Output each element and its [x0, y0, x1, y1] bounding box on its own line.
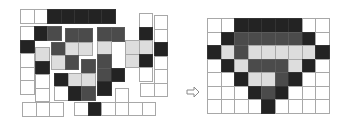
piece-cell-dark [54, 73, 69, 88]
target-cell-white [207, 86, 222, 101]
target-cell-dark [248, 86, 263, 101]
target-cell-dark [248, 18, 263, 33]
piece-cell-white [142, 102, 157, 117]
target-cell-light-gray [261, 72, 276, 87]
piece-cell-medium-gray [111, 27, 126, 42]
piece-cell-white [154, 56, 169, 71]
piece-cell-dark [139, 54, 154, 69]
piece-cell-medium-gray [51, 42, 66, 57]
target-cell-dark [288, 72, 303, 87]
target-cell-light-gray [221, 45, 236, 60]
piece-cell-white [20, 80, 35, 95]
piece-cell-dark [61, 9, 76, 24]
target-cell-white [207, 72, 222, 87]
piece-cell-medium-gray [78, 28, 93, 43]
piece-cell-dark [20, 40, 35, 55]
piece-cell-dark [74, 9, 89, 24]
target-cell-white [302, 18, 317, 33]
piece-cell-light-gray [125, 40, 140, 55]
target-cell-dark [234, 72, 249, 87]
piece-cell-dark [88, 102, 103, 117]
target-cell-medium-gray [275, 59, 290, 74]
piece-cell-white [154, 69, 169, 84]
piece-cell-dark [111, 68, 126, 83]
target-cell-dark [221, 59, 236, 74]
target-cell-dark [234, 18, 249, 33]
target-cell-dark [315, 45, 330, 60]
target-cell-white [302, 72, 317, 87]
target-cell-light-gray [248, 45, 263, 60]
piece-cell-medium-gray [97, 54, 112, 69]
target-cell-light-gray [261, 45, 276, 60]
target-cell-white [221, 86, 236, 101]
piece-cell-dark [88, 9, 103, 24]
piece-cell-light-gray [51, 55, 66, 70]
target-cell-white [315, 18, 330, 33]
target-cell-white [207, 59, 222, 74]
target-cell-medium-gray [234, 32, 249, 47]
piece-cell-dark [101, 9, 116, 24]
target-cell-white [248, 99, 263, 114]
target-cell-light-gray [288, 59, 303, 74]
piece-cell-white [20, 67, 35, 82]
piece-cell-white [139, 67, 154, 82]
target-cell-medium-gray [275, 32, 290, 47]
target-cell-light-gray [234, 59, 249, 74]
piece-cell-medium-gray [65, 28, 80, 43]
piece-cell-white [115, 88, 130, 103]
piece-cell-light-gray [68, 73, 83, 88]
piece-cell-dark [154, 42, 169, 57]
target-cell-white [207, 18, 222, 33]
target-cell-white [207, 99, 222, 114]
target-cell-dark [261, 18, 276, 33]
target-cell-white [221, 99, 236, 114]
piece-cell-white [128, 102, 143, 117]
piece-cell-dark [97, 81, 112, 96]
piece-cell-white [35, 74, 50, 89]
piece-cell-white [139, 13, 154, 28]
piece-cell-light-gray [125, 54, 140, 69]
piece-cell-medium-gray [97, 68, 112, 83]
target-cell-medium-gray [288, 32, 303, 47]
piece-cell-medium-gray [81, 86, 96, 101]
target-cell-light-gray [302, 45, 317, 60]
piece-cell-medium-gray [65, 55, 80, 70]
target-cell-dark [221, 32, 236, 47]
piece-cell-white [36, 102, 51, 117]
piece-cell-white [22, 102, 37, 117]
piece-cell-white [154, 15, 169, 30]
piece-cell-white [20, 53, 35, 68]
target-cell-medium-gray [248, 32, 263, 47]
target-cell-dark [302, 32, 317, 47]
piece-cell-dark [35, 61, 50, 76]
piece-cell-light-gray [139, 40, 154, 55]
right-arrow-icon [186, 86, 200, 98]
piece-cell-white [101, 102, 116, 117]
target-cell-medium-gray [261, 86, 276, 101]
piece-cell-white [154, 29, 169, 44]
piece-cell-white [54, 86, 69, 101]
piece-cell-white [35, 88, 50, 103]
piece-cell-dark [34, 26, 49, 41]
target-cell-white [315, 86, 330, 101]
target-cell-white [207, 32, 222, 47]
piece-cell-light-gray [81, 73, 96, 88]
piece-cell-dark [47, 9, 62, 24]
target-cell-dark [261, 99, 276, 114]
target-cell-white [315, 99, 330, 114]
piece-cell-white [154, 83, 169, 98]
target-cell-white [275, 99, 290, 114]
piece-cell-light-gray [35, 47, 50, 62]
target-cell-medium-gray [261, 32, 276, 47]
piece-cell-medium-gray [47, 26, 62, 41]
target-cell-dark [275, 18, 290, 33]
target-cell-dark [207, 45, 222, 60]
piece-cell-light-gray [78, 42, 93, 57]
target-cell-light-gray [288, 45, 303, 60]
piece-cell-white [34, 9, 49, 24]
target-cell-white [221, 18, 236, 33]
target-cell-medium-gray [261, 59, 276, 74]
target-cell-light-gray [275, 45, 290, 60]
target-cell-white [315, 72, 330, 87]
piece-cell-dark [68, 86, 83, 101]
